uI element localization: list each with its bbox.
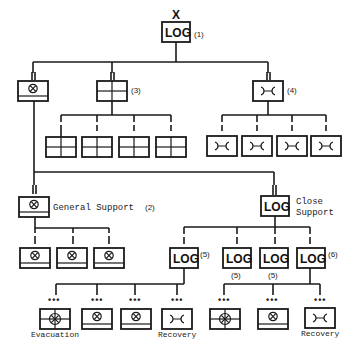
recovery-label: Recovery [301, 329, 340, 338]
supply-company-node[interactable] [82, 137, 112, 157]
gs-maintenance-company-node[interactable] [57, 248, 87, 268]
maintenance-unit-node[interactable] [82, 309, 112, 329]
cs-log-battalion-node[interactable]: LOG [223, 248, 252, 268]
transport-company-node[interactable] [242, 136, 272, 156]
echelon-dots: ••• [266, 295, 278, 305]
maintenance-unit-node[interactable] [258, 309, 288, 329]
general-support-label: General Support [53, 203, 134, 213]
supply-company-node[interactable] [156, 137, 186, 157]
echelon-dots: ••• [91, 295, 103, 305]
transport-company-node[interactable] [277, 136, 307, 156]
transport-battalion-node[interactable] [253, 81, 283, 101]
cs-log-ref: (5) [268, 271, 278, 280]
svg-text:LOG: LOG [165, 26, 191, 40]
evacuation-label: Evacuation [31, 330, 79, 339]
transport-company-node[interactable] [207, 136, 237, 156]
root-ref: (1) [194, 30, 204, 39]
echelon-dots: ••• [314, 295, 326, 305]
maintenance-unit-node[interactable] [121, 309, 151, 329]
cs-log-battalion-node[interactable]: LOG [260, 248, 289, 268]
cs-log-ref: (5) [231, 271, 241, 280]
transport-company-node[interactable] [311, 136, 341, 156]
maintenance-battalion-node[interactable] [18, 81, 48, 101]
cs-log-ref: (6) [328, 250, 338, 259]
evacuation-unit-node[interactable] [40, 309, 70, 329]
close-support-node[interactable]: LOG [261, 196, 290, 216]
recovery-unit-node[interactable] [305, 308, 335, 328]
evacuation-unit-node[interactable] [210, 309, 240, 329]
recovery-label: Recovery [158, 330, 197, 339]
echelon-dots: ••• [129, 295, 141, 305]
svg-text:LOG: LOG [264, 200, 290, 214]
gs-maintenance-company-node[interactable] [94, 248, 124, 268]
general-support-ref: (2) [145, 203, 155, 212]
cs-log-ref: (5) [200, 250, 210, 259]
echelon-dots: ••• [48, 295, 60, 305]
svg-text:LOG: LOG [263, 252, 289, 266]
svg-text:LOG: LOG [300, 252, 326, 266]
recovery-unit-node[interactable] [162, 309, 192, 329]
supply-company-node[interactable] [46, 137, 76, 157]
close-support-label-line2: Support [296, 208, 334, 218]
transport-ref: (4) [287, 86, 297, 95]
supply-ref: (3) [131, 86, 141, 95]
supply-company-node[interactable] [119, 137, 149, 157]
svg-text:LOG: LOG [173, 252, 199, 266]
general-support-node[interactable] [19, 197, 49, 217]
org-chart: X LOG (1) (3) (4) General Support [0, 0, 358, 357]
svg-text:LOG: LOG [226, 252, 252, 266]
cs-log-battalion-node[interactable]: LOG [170, 248, 199, 268]
supply-battalion-node[interactable] [97, 81, 127, 101]
cs-log-battalion-node[interactable]: LOG [297, 248, 326, 268]
echelon-dots: ••• [218, 295, 230, 305]
root-log-node[interactable]: LOG [162, 22, 191, 42]
gs-maintenance-company-node[interactable] [20, 248, 50, 268]
corps-size-marker: X [172, 8, 180, 22]
close-support-label-line1: Close [296, 197, 323, 207]
echelon-dots: ••• [171, 295, 183, 305]
